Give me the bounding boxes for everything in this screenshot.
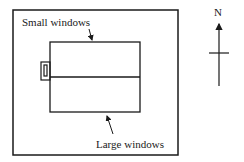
site-boundary: [13, 10, 178, 155]
entrance-slot: [44, 65, 47, 76]
building: [50, 42, 140, 112]
small-windows-label: Small windows: [22, 16, 90, 28]
north-arrow: N: [209, 6, 229, 86]
large-windows-label: Large windows: [96, 138, 164, 150]
entrance: [41, 62, 50, 80]
site-plan-diagram: Small windows Large windows N: [0, 0, 244, 162]
north-label: N: [214, 6, 222, 18]
small-windows-arrow: [89, 29, 92, 40]
large-windows-arrow: [107, 116, 113, 134]
